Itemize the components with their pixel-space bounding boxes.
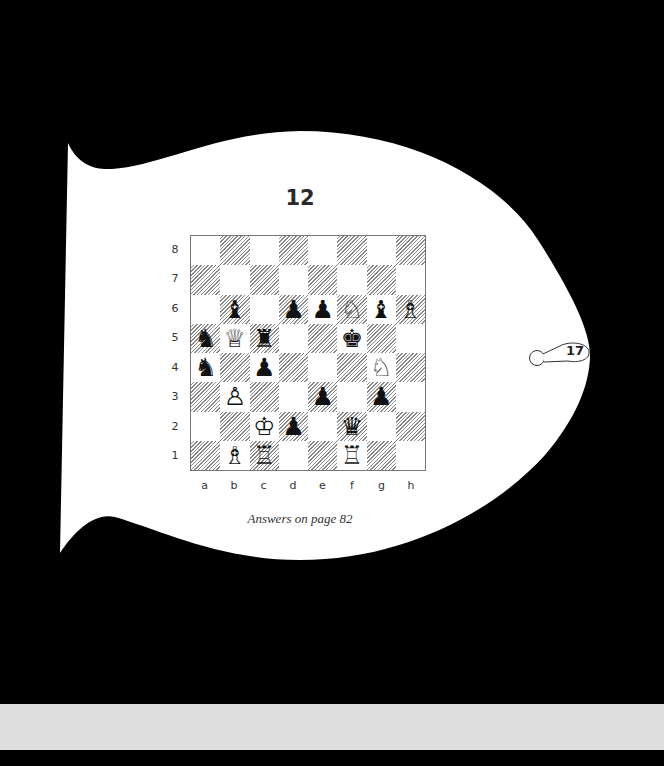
square-a5[interactable]: ♞ xyxy=(191,324,220,353)
rank-label-1: 1 xyxy=(168,449,182,462)
white-queen-icon[interactable]: ♕ xyxy=(224,326,246,351)
square-d7[interactable] xyxy=(279,265,308,294)
square-b7[interactable] xyxy=(220,265,249,294)
square-a1[interactable] xyxy=(191,441,220,470)
square-e8[interactable] xyxy=(308,236,337,265)
chess-board: ♝♟♟♘♝♗♞♕♜♚♞♟♘♙♟♟♔♟♛♗♖♖ xyxy=(190,235,426,471)
square-e3[interactable]: ♟ xyxy=(308,382,337,411)
square-a7[interactable] xyxy=(191,265,220,294)
square-d2[interactable]: ♟ xyxy=(279,412,308,441)
black-pawn-icon[interactable]: ♟ xyxy=(253,355,275,380)
white-pawn-icon[interactable]: ♙ xyxy=(224,384,246,409)
square-g4[interactable]: ♘ xyxy=(367,353,396,382)
black-bishop-icon[interactable]: ♝ xyxy=(224,297,246,322)
square-e6[interactable]: ♟ xyxy=(308,295,337,324)
square-c3[interactable] xyxy=(250,382,279,411)
square-e1[interactable] xyxy=(308,441,337,470)
square-c5[interactable]: ♜ xyxy=(250,324,279,353)
black-pawn-icon[interactable]: ♟ xyxy=(311,297,333,322)
square-f5[interactable]: ♚ xyxy=(337,324,366,353)
square-g8[interactable] xyxy=(367,236,396,265)
white-rook-icon[interactable]: ♖ xyxy=(253,443,275,468)
white-rook-icon[interactable]: ♖ xyxy=(341,443,363,468)
square-b2[interactable] xyxy=(220,412,249,441)
square-f2[interactable]: ♛ xyxy=(337,412,366,441)
square-f3[interactable] xyxy=(337,382,366,411)
square-e2[interactable] xyxy=(308,412,337,441)
square-f8[interactable] xyxy=(337,236,366,265)
black-queen-icon[interactable]: ♛ xyxy=(341,414,363,439)
square-b1[interactable]: ♗ xyxy=(220,441,249,470)
square-h6[interactable]: ♗ xyxy=(396,295,425,324)
square-d1[interactable] xyxy=(279,441,308,470)
square-g7[interactable] xyxy=(367,265,396,294)
square-g2[interactable] xyxy=(367,412,396,441)
page-tab-icon xyxy=(528,339,594,369)
black-pawn-icon[interactable]: ♟ xyxy=(311,384,333,409)
square-d8[interactable] xyxy=(279,236,308,265)
square-h2[interactable] xyxy=(396,412,425,441)
black-rook-icon[interactable]: ♜ xyxy=(253,326,275,351)
square-a3[interactable] xyxy=(191,382,220,411)
square-f6[interactable]: ♘ xyxy=(337,295,366,324)
square-g6[interactable]: ♝ xyxy=(367,295,396,324)
square-f7[interactable] xyxy=(337,265,366,294)
black-king-icon[interactable]: ♚ xyxy=(341,326,363,351)
black-pawn-icon[interactable]: ♟ xyxy=(370,384,392,409)
square-e5[interactable] xyxy=(308,324,337,353)
bottom-bar xyxy=(0,704,664,750)
black-pawn-icon[interactable]: ♟ xyxy=(282,414,304,439)
file-label-f: f xyxy=(338,479,367,492)
square-b4[interactable] xyxy=(220,353,249,382)
file-label-e: e xyxy=(308,479,337,492)
square-a8[interactable] xyxy=(191,236,220,265)
square-h7[interactable] xyxy=(396,265,425,294)
black-knight-icon[interactable]: ♞ xyxy=(194,326,216,351)
square-d5[interactable] xyxy=(279,324,308,353)
rank-label-8: 8 xyxy=(168,243,182,256)
square-b6[interactable]: ♝ xyxy=(220,295,249,324)
square-c8[interactable] xyxy=(250,236,279,265)
white-bishop-icon[interactable]: ♗ xyxy=(224,443,246,468)
white-knight-icon[interactable]: ♘ xyxy=(370,355,392,380)
square-h4[interactable] xyxy=(396,353,425,382)
square-g5[interactable] xyxy=(367,324,396,353)
square-g3[interactable]: ♟ xyxy=(367,382,396,411)
square-c6[interactable] xyxy=(250,295,279,324)
square-b5[interactable]: ♕ xyxy=(220,324,249,353)
square-h8[interactable] xyxy=(396,236,425,265)
square-c2[interactable]: ♔ xyxy=(250,412,279,441)
square-h3[interactable] xyxy=(396,382,425,411)
white-bishop-icon[interactable]: ♗ xyxy=(399,297,421,322)
square-d3[interactable] xyxy=(279,382,308,411)
square-c7[interactable] xyxy=(250,265,279,294)
square-h5[interactable] xyxy=(396,324,425,353)
square-g1[interactable] xyxy=(367,441,396,470)
square-a4[interactable]: ♞ xyxy=(191,353,220,382)
square-a6[interactable] xyxy=(191,295,220,324)
black-pawn-icon[interactable]: ♟ xyxy=(282,297,304,322)
square-d6[interactable]: ♟ xyxy=(279,295,308,324)
square-d4[interactable] xyxy=(279,353,308,382)
square-f4[interactable] xyxy=(337,353,366,382)
rank-label-6: 6 xyxy=(168,302,182,315)
square-b8[interactable] xyxy=(220,236,249,265)
black-knight-icon[interactable]: ♞ xyxy=(194,355,216,380)
square-e4[interactable] xyxy=(308,353,337,382)
square-b3[interactable]: ♙ xyxy=(220,382,249,411)
file-label-b: b xyxy=(220,479,249,492)
square-c4[interactable]: ♟ xyxy=(250,353,279,382)
square-c1[interactable]: ♖ xyxy=(250,441,279,470)
square-h1[interactable] xyxy=(396,441,425,470)
file-label-d: d xyxy=(279,479,308,492)
square-f1[interactable]: ♖ xyxy=(337,441,366,470)
rank-label-3: 3 xyxy=(168,390,182,403)
square-e7[interactable] xyxy=(308,265,337,294)
puzzle-number: 12 xyxy=(270,186,330,210)
file-label-h: h xyxy=(397,479,426,492)
white-king-icon[interactable]: ♔ xyxy=(253,414,275,439)
black-bishop-icon[interactable]: ♝ xyxy=(370,297,392,322)
rank-label-5: 5 xyxy=(168,331,182,344)
white-knight-icon[interactable]: ♘ xyxy=(341,297,363,322)
square-a2[interactable] xyxy=(191,412,220,441)
